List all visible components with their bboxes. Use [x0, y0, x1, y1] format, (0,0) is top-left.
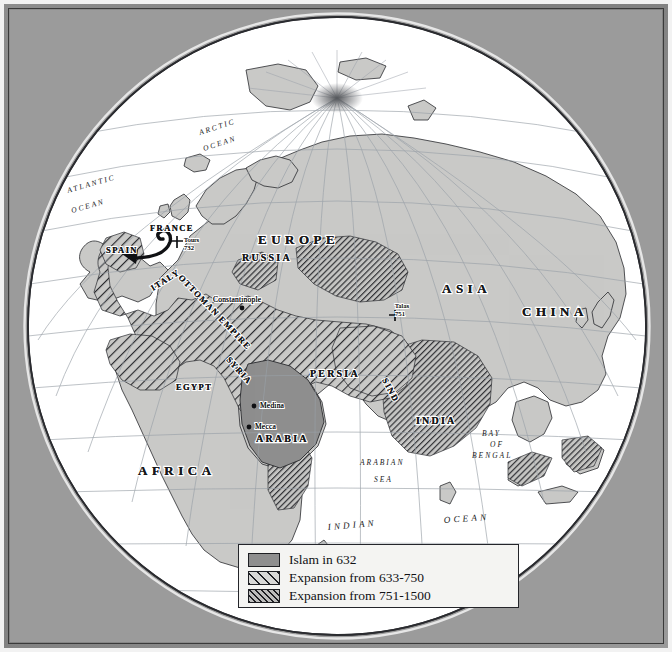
- label-spain-fg: SPAIN: [106, 245, 138, 255]
- label-medina-fg: Medina: [260, 401, 285, 410]
- label-europe-fg: EUROPE: [258, 232, 339, 247]
- label-constantinople-fg: Constantinople: [213, 295, 262, 304]
- legend-label-expansion-751-1500: Expansion from 751-1500: [289, 588, 431, 603]
- legend-swatch-tight-hatch: [248, 589, 280, 603]
- legend-label-islam-632: Islam in 632: [289, 552, 357, 567]
- label-arabia-fg: ARABIA: [256, 433, 309, 444]
- label-talas-name-fg: Talas: [395, 302, 409, 309]
- map-page: EUROPE EUROPE ASIA ASIA AFRICA AFRICA CH…: [0, 0, 672, 652]
- label-mecca-fg: Mecca: [255, 422, 276, 431]
- mecca-dot: [247, 425, 252, 430]
- label-france-fg: FRANCE: [150, 223, 194, 233]
- label-africa-fg: AFRICA: [138, 463, 216, 478]
- label-bay-of: OF: [490, 440, 504, 449]
- legend-row-expansion-751-1500: Expansion from 751-1500: [248, 587, 510, 604]
- label-india-fg: INDIA: [416, 415, 456, 426]
- label-tours-name-fg: Tours: [184, 236, 200, 243]
- map-legend: Islam in 632 Expansion from 633-750 Expa…: [238, 544, 519, 608]
- label-russia-fg: RUSSIA: [242, 252, 292, 263]
- label-egypt-fg: EGYPT: [176, 382, 212, 392]
- label-talas-year-fg: 751: [395, 310, 405, 317]
- label-tours-year-fg: 732: [184, 244, 194, 251]
- legend-label-expansion-633-750: Expansion from 633-750: [289, 570, 424, 585]
- medina-dot: [252, 404, 257, 409]
- label-bay: BAY: [482, 429, 501, 438]
- legend-swatch-wide-hatch: [248, 571, 280, 585]
- north-pole-glow: [311, 83, 363, 113]
- label-china-fg: CHINA: [522, 304, 588, 319]
- label-persia-fg: PERSIA: [310, 368, 360, 379]
- constantinople-dot: [240, 306, 245, 311]
- label-bay-bengal: BENGAL: [472, 451, 512, 460]
- map-field: EUROPE EUROPE ASIA ASIA AFRICA AFRICA CH…: [10, 10, 662, 642]
- label-arabian: ARABIAN: [359, 458, 404, 467]
- legend-swatch-solid-gray: [248, 553, 280, 567]
- label-arabian-sea: SEA: [374, 475, 393, 484]
- legend-row-islam-632: Islam in 632: [248, 551, 510, 568]
- label-asia-fg: ASIA: [442, 281, 491, 296]
- legend-row-expansion-633-750: Expansion from 633-750: [248, 569, 510, 586]
